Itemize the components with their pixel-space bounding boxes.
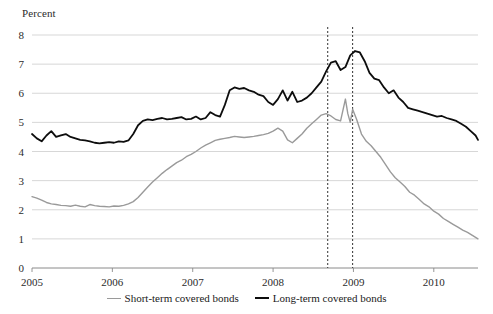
legend-item: Short-term covered bonds — [107, 292, 239, 304]
y-tick-label: 3 — [19, 175, 25, 187]
legend-swatch-icon — [255, 297, 269, 299]
x-tick-labels: 200520062007200820092010 — [21, 276, 445, 288]
x-tick-label: 2010 — [423, 276, 446, 288]
x-tick-marks — [32, 268, 434, 272]
y-tick-label: 8 — [19, 29, 25, 41]
y-tick-label: 1 — [19, 233, 25, 245]
chart-legend: Short-term covered bondsLong-term covere… — [0, 288, 493, 308]
legend-label: Short-term covered bonds — [125, 292, 239, 304]
y-tick-label: 0 — [19, 262, 25, 274]
data-series — [32, 51, 478, 239]
legend-label: Long-term covered bonds — [273, 292, 387, 304]
y-tick-label: 6 — [19, 87, 25, 99]
y-tick-label: 2 — [19, 204, 25, 216]
gridlines — [32, 35, 478, 268]
y-tick-label: 4 — [19, 146, 25, 158]
x-tick-label: 2007 — [182, 276, 205, 288]
y-tick-label: 7 — [19, 58, 25, 70]
y-tick-label: 5 — [19, 116, 25, 128]
plot-area: 012345678 200520062007200820092010 — [0, 0, 493, 314]
x-tick-label: 2005 — [21, 276, 44, 288]
series-line — [32, 99, 478, 239]
x-tick-label: 2008 — [262, 276, 285, 288]
x-tick-label: 2006 — [101, 276, 124, 288]
legend-swatch-icon — [107, 298, 121, 299]
chart-container: Percent 012345678 2005200620072008200920… — [0, 0, 493, 314]
y-tick-labels: 012345678 — [19, 29, 25, 274]
chart-svg: 012345678 200520062007200820092010 — [0, 0, 493, 314]
legend-item: Long-term covered bonds — [255, 292, 387, 304]
series-line — [32, 51, 478, 143]
x-tick-label: 2009 — [342, 276, 365, 288]
